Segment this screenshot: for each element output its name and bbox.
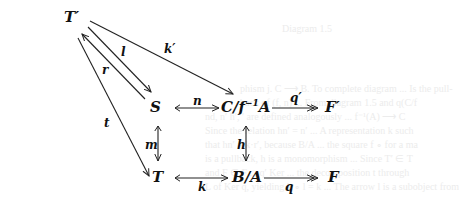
node-t-prime: T′: [64, 8, 79, 26]
arrow-k-prime: [90, 21, 233, 94]
label-t: t: [104, 116, 110, 130]
node-f-prime: F′: [325, 98, 340, 116]
arrow-l: [88, 27, 151, 92]
label-k: k: [198, 180, 206, 194]
label-n: n: [193, 94, 202, 108]
label-m: m: [145, 138, 158, 152]
node-b-quotient: B/A: [232, 168, 262, 186]
node-t: T: [152, 168, 163, 186]
arrow-t: [78, 38, 149, 176]
label-q: q: [285, 180, 293, 194]
node-c-quotient: C/f−1A: [221, 98, 270, 116]
node-c-quotient-exponent: −1: [245, 98, 259, 108]
node-s: S: [150, 98, 161, 116]
label-l: l: [121, 45, 126, 59]
node-c-quotient-tail: A: [259, 98, 271, 116]
label-h: h: [237, 138, 246, 152]
label-r: r: [102, 63, 108, 77]
node-f: F: [328, 168, 339, 186]
label-q-prime: q′: [290, 91, 302, 105]
node-c-quotient-base: C/f: [221, 98, 245, 116]
label-k-prime: k′: [164, 42, 175, 56]
